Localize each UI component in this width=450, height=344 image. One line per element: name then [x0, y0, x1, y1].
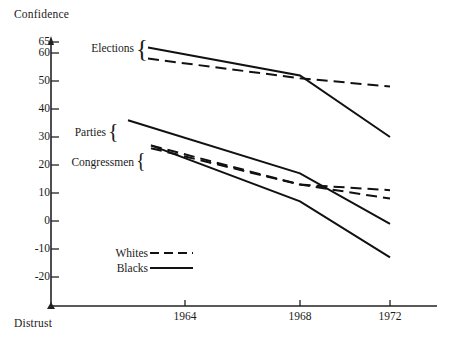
series-elections-blacks: [148, 47, 390, 137]
legend-swatches: [150, 253, 193, 268]
series-elections-whites: [148, 59, 390, 87]
confidence-distrust-chart: Confidence Distrust 65 60 50 40 30 20 10…: [0, 0, 450, 344]
plot-area: [0, 0, 450, 344]
series-parties-blacks: [128, 120, 390, 224]
x-axis-ticks: [185, 300, 390, 306]
series-congressmen-blacks: [151, 145, 390, 257]
series-lines: [128, 47, 390, 257]
y-axis-ticks: [51, 42, 59, 277]
axes: [47, 36, 437, 309]
